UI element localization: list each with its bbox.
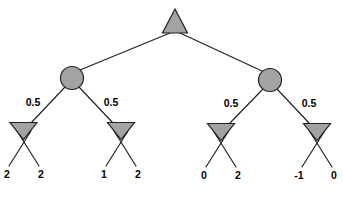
edge-group-chance-left bbox=[31, 87, 113, 123]
leaf-value-7: -1 bbox=[294, 169, 303, 181]
prob-label-left-right: 0.5 bbox=[104, 96, 119, 108]
min-node-2[interactable] bbox=[108, 123, 135, 140]
leaf-value-1: 2 bbox=[4, 168, 10, 180]
game-tree-diagram: 0.5 0.5 0.5 0.5 2 2 1 2 0 2 -1 0 bbox=[0, 0, 343, 200]
leaf-value-3: 1 bbox=[101, 168, 107, 180]
leaf-value-6: 2 bbox=[235, 169, 241, 181]
min-node-4[interactable] bbox=[304, 124, 331, 141]
leaf-value-5: 0 bbox=[201, 169, 207, 181]
prob-label-right-right: 0.5 bbox=[302, 97, 317, 109]
prob-label-right-left: 0.5 bbox=[224, 97, 239, 109]
edge-root-to-chance-right bbox=[180, 33, 262, 71]
edge-group-root bbox=[80, 33, 262, 71]
min-node-1[interactable] bbox=[10, 123, 37, 140]
min-node-3[interactable] bbox=[208, 124, 235, 141]
edge-root-to-chance-left bbox=[80, 33, 170, 70]
edge-group-leaves bbox=[9, 131, 332, 167]
prob-label-left-left: 0.5 bbox=[26, 96, 41, 108]
edge-group-chance-right bbox=[229, 89, 310, 124]
max-node-root[interactable] bbox=[163, 9, 188, 33]
leaf-value-4: 2 bbox=[135, 168, 141, 180]
chance-node-right[interactable] bbox=[259, 69, 282, 92]
tree-canvas: 0.5 0.5 0.5 0.5 2 2 1 2 0 2 -1 0 bbox=[0, 0, 343, 200]
leaf-value-8: 0 bbox=[331, 169, 337, 181]
leaf-value-2: 2 bbox=[38, 168, 44, 180]
chance-node-left[interactable] bbox=[61, 67, 84, 90]
